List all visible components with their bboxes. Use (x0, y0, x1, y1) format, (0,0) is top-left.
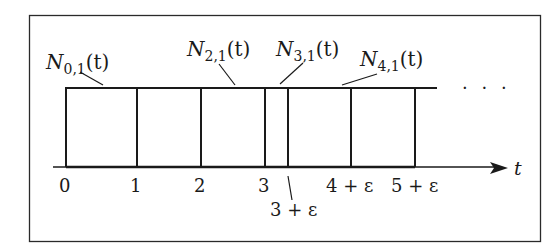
label-N41: N4,1(t) (359, 47, 423, 74)
axis-label: t (514, 157, 522, 179)
leader-3-eps (288, 176, 292, 200)
knot-lines (66, 88, 415, 167)
tick-label-3: 3 (258, 175, 269, 196)
function-labels: N0,1(t) N2,1(t) N3,1(t) N4,1(t) (45, 37, 423, 77)
label-N21: N2,1(t) (186, 37, 250, 64)
label-N31: N3,1(t) (275, 37, 339, 64)
leader-N21 (219, 64, 235, 85)
tick-label-3-eps: 3 + ε (270, 199, 317, 220)
tick-labels: 0 1 2 3 3 + ε 4 + ε 5 + ε (59, 175, 438, 220)
tick-label-4-eps: 4 + ε (326, 175, 373, 196)
label-leaders (80, 63, 377, 85)
leader-N41 (342, 74, 377, 85)
label-N01: N0,1(t) (45, 50, 109, 77)
tick-label-0: 0 (59, 175, 70, 196)
leader-N31 (280, 63, 303, 84)
basis-function-diagram: t 0 1 2 3 3 + ε 4 + ε 5 + ε N0,1(t) N2,1… (0, 0, 560, 248)
tick-label-1: 1 (130, 175, 141, 196)
tick-label-5-eps: 5 + ε (391, 175, 438, 196)
tick-label-2: 2 (194, 175, 205, 196)
axis-arrow-icon (490, 162, 508, 174)
continuation-dots: · · · (462, 77, 511, 98)
